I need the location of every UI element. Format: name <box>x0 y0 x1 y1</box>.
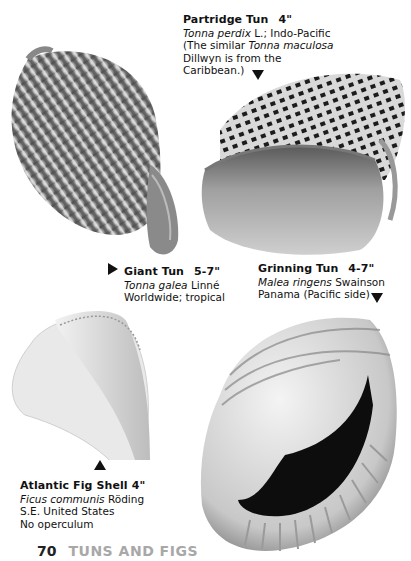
grinning-tun-illustration <box>190 305 411 561</box>
range: Panama (Pacific side) <box>258 288 385 301</box>
author: Swainson <box>335 276 385 288</box>
grinning-tun-caption: Grinning Tun4-7" Malea ringens Swainson … <box>258 263 385 301</box>
author-range: L.; Indo-Pacific <box>254 27 330 39</box>
scientific-name: Ficus communis <box>20 493 105 505</box>
note-scientific: Tonna maculosa <box>249 39 334 51</box>
note-text: Dillwyn is from the <box>183 52 333 65</box>
giant-tun-illustration <box>0 35 200 265</box>
shell-name: Giant Tun <box>124 265 184 278</box>
range: S.E. United States <box>20 505 145 518</box>
note-text: (The similar <box>183 39 249 51</box>
arrow-up-icon <box>94 460 106 470</box>
shell-name: Partridge Tun <box>183 13 268 26</box>
giant-tun-caption: Giant Tun5-7" Tonna galea Linné Worldwid… <box>124 266 225 304</box>
atlantic-fig-shell-caption: Atlantic Fig Shell4" Ficus communis Rödi… <box>20 480 145 530</box>
shell-size: 5-7" <box>194 265 220 278</box>
atlantic-fig-shell-illustration <box>0 300 200 460</box>
partridge-tun-illustration <box>200 60 411 255</box>
shell-size: 4" <box>278 13 292 26</box>
partridge-tun-caption: Partridge Tun4" Tonna perdix L.; Indo-Pa… <box>183 14 333 77</box>
extra-note: No operculum <box>20 518 145 531</box>
arrow-down-icon <box>371 293 383 303</box>
scientific-name: Tonna galea <box>124 279 188 291</box>
scientific-name: Tonna perdix <box>183 27 251 39</box>
author: Linné <box>191 279 220 291</box>
shell-name: Atlantic Fig Shell <box>20 479 128 492</box>
shell-size: 4" <box>132 479 146 492</box>
section-title: TUNS AND FIGS <box>68 543 198 559</box>
author: Röding <box>108 493 144 505</box>
page-footer: 70TUNS AND FIGS <box>37 543 198 559</box>
arrow-down-icon <box>252 70 264 80</box>
arrow-right-icon <box>108 263 118 275</box>
page-number: 70 <box>37 543 56 559</box>
shell-size: 4-7" <box>348 262 374 275</box>
range: Worldwide; tropical <box>124 291 225 304</box>
shell-name: Grinning Tun <box>258 262 338 275</box>
scientific-name: Malea ringens <box>258 276 332 288</box>
